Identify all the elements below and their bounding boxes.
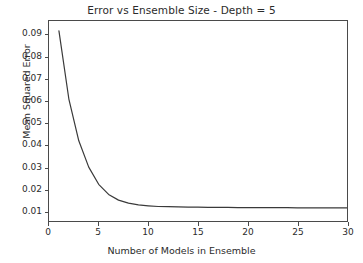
y-tick-label: 0.01 [2, 206, 42, 216]
x-tick-mark [248, 222, 249, 226]
x-tick-label: 30 [333, 227, 363, 237]
plot-area [48, 20, 348, 222]
x-tick-label: 0 [33, 227, 63, 237]
series-line-mean-squared-error [49, 21, 347, 221]
x-tick-mark [98, 222, 99, 226]
x-tick-mark [348, 222, 349, 226]
x-tick-mark [198, 222, 199, 226]
y-tick-label: 0.02 [2, 184, 42, 194]
y-axis-label: Mean Squared Error [21, 22, 32, 162]
x-tick-label: 15 [183, 227, 213, 237]
x-tick-mark [148, 222, 149, 226]
x-tick-mark [298, 222, 299, 226]
x-tick-label: 25 [283, 227, 313, 237]
y-tick-label: 0.03 [2, 162, 42, 172]
x-axis-label: Number of Models in Ensemble [0, 245, 363, 256]
x-tick-label: 20 [233, 227, 263, 237]
x-tick-label: 5 [83, 227, 113, 237]
chart-title: Error vs Ensemble Size - Depth = 5 [0, 4, 363, 16]
x-tick-mark [48, 222, 49, 226]
x-tick-label: 10 [133, 227, 163, 237]
chart-figure: Error vs Ensemble Size - Depth = 5 0.010… [0, 0, 363, 263]
